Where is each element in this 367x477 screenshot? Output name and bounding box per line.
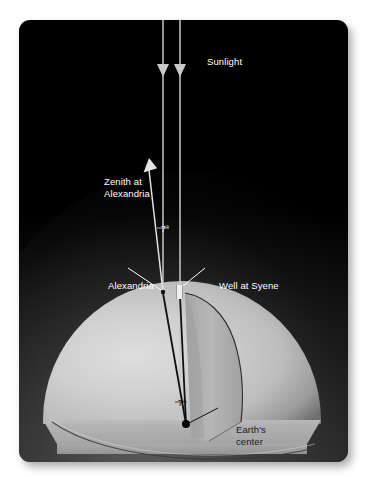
zenith-arrow-head: [142, 157, 157, 172]
well-at-syene-label: Well at Syene: [219, 280, 279, 292]
sunlight-label: Sunlight: [207, 56, 242, 68]
figure-canvas: Sunlight Zenith at Alexandria Alexandria…: [0, 0, 367, 477]
well-at-syene-shaft: [177, 285, 183, 299]
angle-top-label: 7°: [161, 224, 169, 234]
alexandria-point: [161, 290, 165, 294]
alexandria-label: Alexandria: [108, 280, 154, 292]
sunlight-ray-right-arrowhead: [174, 64, 186, 77]
earth-body: [43, 281, 321, 459]
earth-slab-top-face: [43, 420, 321, 444]
earth-center-label: Earth's center: [236, 424, 266, 447]
sunlight-ray-left-arrowhead: [157, 64, 169, 77]
illustration-panel: Sunlight Zenith at Alexandria Alexandria…: [19, 20, 348, 462]
zenith-at-alexandria-label: Zenith at Alexandria: [104, 176, 150, 199]
angle-bottom-label: 7°: [178, 398, 186, 408]
diagram-artwork: [19, 20, 348, 462]
earth-center-point: [182, 420, 190, 428]
